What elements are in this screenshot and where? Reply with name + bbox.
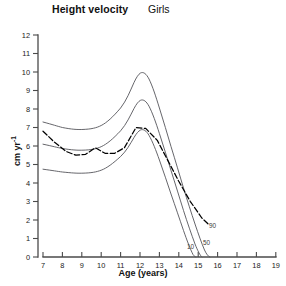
- y-tick-label: 2: [26, 216, 30, 225]
- x-tick-label: 16: [213, 261, 221, 270]
- y-tick-label: 4: [26, 179, 30, 188]
- curve-label-90: 90: [209, 222, 217, 229]
- x-tick-label: 18: [252, 261, 260, 270]
- x-tick-label: 19: [272, 261, 280, 270]
- centile-curve-90: [43, 73, 210, 257]
- height-velocity-chart: Height velocity Girls 0 1 2 3: [0, 0, 286, 286]
- y-tick-label: 6: [26, 142, 30, 151]
- x-tick-label: 10: [97, 261, 105, 270]
- x-tick-label: 15: [194, 261, 202, 270]
- x-axis-ticks: [43, 252, 276, 257]
- patient-velocity-line: [43, 128, 210, 226]
- curve-label-50: 50: [203, 239, 211, 246]
- centile-curve-50: [43, 100, 202, 257]
- y-axis-title-base: cm yr: [12, 142, 22, 166]
- x-axis-title: Age (years): [118, 268, 167, 278]
- y-axis-tick-labels: 0 1 2 3 4 5 6 7 8 9 10 11 12: [22, 31, 30, 262]
- y-tick-label: 9: [26, 86, 30, 95]
- curve-label-10: 10: [187, 243, 195, 250]
- x-tick-label: 14: [175, 261, 183, 270]
- y-axis-ticks: [33, 35, 38, 257]
- y-tick-label: 8: [26, 105, 30, 114]
- y-tick-label: 11: [22, 49, 30, 58]
- x-tick-label: 9: [80, 261, 84, 270]
- x-tick-label: 7: [41, 261, 45, 270]
- y-axis-title-exponent: -1: [10, 136, 17, 142]
- y-tick-label: 0: [26, 253, 30, 262]
- x-tick-label: 17: [233, 261, 241, 270]
- y-tick-label: 5: [26, 160, 30, 169]
- y-tick-label: 3: [26, 197, 30, 206]
- y-tick-label: 1: [26, 234, 30, 243]
- y-tick-label: 10: [22, 68, 30, 77]
- chart-svg: 0 1 2 3 4 5 6 7 8 9 10 11 12: [0, 0, 286, 286]
- y-tick-label: 7: [26, 123, 30, 132]
- y-axis-title: cm yr-1: [10, 121, 22, 181]
- x-tick-label: 8: [60, 261, 64, 270]
- y-tick-label: 12: [22, 31, 30, 40]
